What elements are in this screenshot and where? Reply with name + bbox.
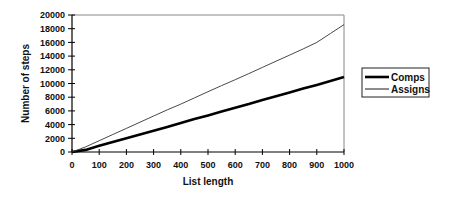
x-axis-title: List length xyxy=(183,176,234,187)
x-tick-label: 100 xyxy=(92,160,107,170)
legend: Comps Assigns xyxy=(362,68,430,97)
y-axis-ticks: 0200040006000800010000120001400016000180… xyxy=(40,10,75,157)
y-tick-label: 12000 xyxy=(40,65,65,75)
x-tick-label: 1000 xyxy=(334,160,354,170)
y-tick-label: 14000 xyxy=(40,51,65,61)
plot-area xyxy=(72,15,344,152)
x-tick-label: 400 xyxy=(173,160,188,170)
x-tick-label: 800 xyxy=(282,160,297,170)
series-line-comps xyxy=(72,77,344,152)
y-tick-label: 8000 xyxy=(45,92,65,102)
x-tick-label: 500 xyxy=(200,160,215,170)
y-tick-label: 20000 xyxy=(40,10,65,20)
y-tick-label: 16000 xyxy=(40,38,65,48)
x-tick-label: 900 xyxy=(309,160,324,170)
y-tick-label: 18000 xyxy=(40,24,65,34)
y-axis-title: Number of steps xyxy=(20,44,31,123)
legend-label-assigns: Assigns xyxy=(391,84,430,95)
x-tick-label: 200 xyxy=(119,160,134,170)
y-tick-label: 10000 xyxy=(40,79,65,89)
y-tick-label: 0 xyxy=(60,147,65,157)
x-tick-label: 300 xyxy=(146,160,161,170)
x-tick-label: 0 xyxy=(69,160,74,170)
y-tick-label: 6000 xyxy=(45,106,65,116)
legend-label-comps: Comps xyxy=(391,72,425,83)
y-tick-label: 4000 xyxy=(45,120,65,130)
series-lines xyxy=(72,25,344,152)
x-tick-label: 600 xyxy=(228,160,243,170)
line-chart: 0200040006000800010000120001400016000180… xyxy=(0,0,450,201)
y-tick-label: 2000 xyxy=(45,134,65,144)
x-tick-label: 700 xyxy=(255,160,270,170)
